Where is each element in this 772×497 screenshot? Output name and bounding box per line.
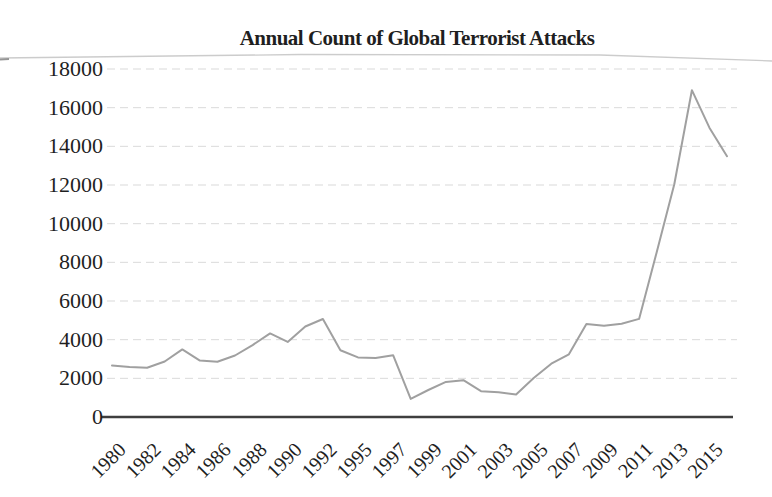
scan-artifacts (0, 55, 772, 62)
y-tick-label: 18000 (0, 57, 103, 81)
attack-count-line-series (112, 90, 727, 399)
y-tick-label: 6000 (0, 289, 103, 313)
y-tick-label: 8000 (0, 250, 103, 274)
terrorist-attacks-line-chart (0, 0, 772, 497)
y-tick-label: 10000 (0, 212, 103, 236)
y-tick-label: 14000 (0, 134, 103, 158)
y-tick-label: 16000 (0, 96, 103, 120)
scanned-chart-page: Annual Count of Global Terrorist Attacks… (0, 0, 772, 497)
y-tick-label: 12000 (0, 173, 103, 197)
y-tick-label: 4000 (0, 328, 103, 352)
scan-artifact-line (0, 55, 772, 62)
y-tick-label: 0 (0, 405, 103, 429)
gridlines (107, 69, 737, 378)
y-tick-label: 2000 (0, 366, 103, 390)
